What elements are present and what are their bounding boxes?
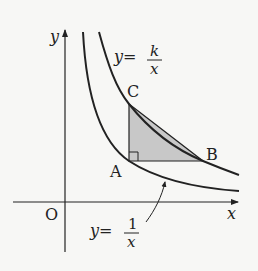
equation-1-over-x: y= 1 x [89, 215, 139, 251]
point-a-label: A [109, 162, 122, 181]
y-axis-label: y [49, 27, 60, 46]
equation-k-lhs: y= [113, 47, 136, 66]
hyperbola-triangle-diagram: y x O C A B y= k x y= 1 x [0, 0, 258, 271]
point-b-label: B [206, 145, 218, 164]
equation-k-denominator: x [150, 60, 159, 78]
equation-1-numerator: 1 [128, 215, 138, 233]
origin-label: O [45, 205, 58, 224]
equation-1-lhs: y= [89, 221, 112, 240]
point-c-label: C [127, 82, 139, 101]
triangle-abc [129, 104, 203, 161]
equation-1-denominator: x [127, 233, 136, 251]
equation-k-over-x: y= k x [113, 42, 162, 78]
equation-k-numerator: k [150, 42, 159, 60]
x-axis-label: x [227, 204, 236, 223]
